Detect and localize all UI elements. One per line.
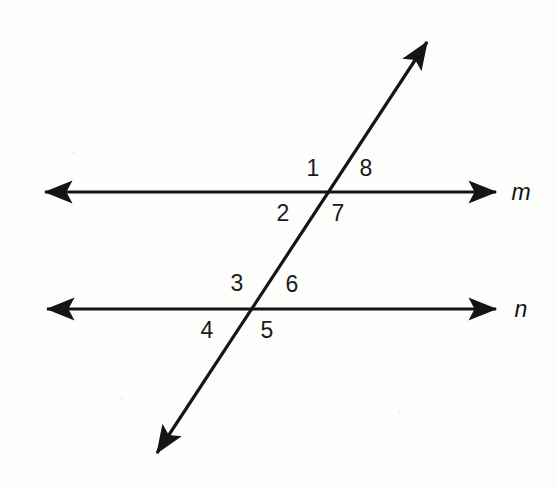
angle-label-3: 3 (231, 272, 244, 295)
angle-label-1: 1 (307, 157, 320, 180)
angle-label-2: 2 (277, 202, 290, 225)
geometry-diagram: 1 8 2 7 3 6 4 5 m n (0, 0, 556, 491)
angle-label-6: 6 (286, 273, 299, 296)
geometry-canvas (0, 0, 556, 491)
angle-label-7: 7 (332, 202, 345, 225)
angle-label-5: 5 (261, 319, 274, 342)
angle-label-4: 4 (201, 319, 214, 342)
line-label-m: m (511, 181, 530, 204)
transversal-stroke (157, 42, 427, 453)
line-label-n: n (515, 298, 528, 321)
angle-label-8: 8 (360, 157, 373, 180)
